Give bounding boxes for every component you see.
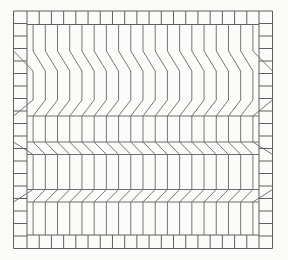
shear-diagonal-right-border	[253, 100, 273, 116]
shear-diagonal-left-border	[14, 100, 34, 116]
shear-diagonal	[45, 100, 57, 116]
shear-diagonal	[58, 51, 70, 71]
shear-diagonal	[241, 190, 253, 203]
shear-diagonal	[241, 51, 253, 71]
shear-diagonal	[33, 100, 45, 116]
shear-diagonal	[119, 142, 131, 155]
shear-diagonal-right-border	[253, 190, 273, 203]
shear-diagonal	[216, 190, 228, 203]
shear-diagonal	[155, 142, 167, 155]
shear-diagonal	[155, 51, 167, 71]
shear-diagonal	[119, 190, 131, 203]
shear-diagonal	[192, 51, 204, 71]
shear-diagonal	[58, 190, 70, 203]
shear-diagonal	[167, 142, 179, 155]
shear-diagonal	[131, 51, 143, 71]
shear-diagonal	[143, 100, 155, 116]
shear-diagonal	[106, 100, 118, 116]
shear-diagonal	[106, 190, 118, 203]
shear-diagonal	[216, 100, 228, 116]
shear-diagonal	[143, 142, 155, 155]
shear-diagonal	[70, 51, 82, 71]
shear-diagonal	[228, 51, 240, 71]
shear-diagonal	[180, 100, 192, 116]
shear-diagonal	[82, 100, 94, 116]
shear-diagonal	[204, 100, 216, 116]
shear-diagonal	[180, 51, 192, 71]
shear-diagonal	[58, 100, 70, 116]
shear-diagonal	[204, 142, 216, 155]
shear-diagonal	[45, 190, 57, 203]
shear-diagonal	[58, 142, 70, 155]
shear-diagonal	[180, 142, 192, 155]
shear-diagonal	[167, 51, 179, 71]
shear-diagonal	[155, 190, 167, 203]
shear-diagonal	[216, 51, 228, 71]
shear-diagonal	[70, 100, 82, 116]
shear-diagonal	[204, 51, 216, 71]
shear-diagonal	[216, 142, 228, 155]
shear-diagonal	[131, 142, 143, 155]
shear-diagonal	[131, 190, 143, 203]
offset-quad-mesh-diagram	[0, 0, 288, 260]
shear-diagonal	[106, 51, 118, 71]
shear-diagonal	[192, 142, 204, 155]
shear-diagonal	[94, 100, 106, 116]
shear-diagonal	[143, 51, 155, 71]
shear-diagonal	[94, 190, 106, 203]
shear-diagonal	[228, 100, 240, 116]
shear-diagonal	[192, 100, 204, 116]
shear-diagonal	[94, 51, 106, 71]
shear-diagonal	[106, 142, 118, 155]
shear-diagonal	[131, 100, 143, 116]
shear-diagonal	[119, 51, 131, 71]
shear-diagonal	[33, 190, 45, 203]
shear-diagonal	[180, 190, 192, 203]
shear-diagonal	[204, 190, 216, 203]
shear-diagonal	[241, 100, 253, 116]
shear-diagonal	[241, 142, 253, 155]
shear-diagonal	[82, 51, 94, 71]
shear-diagonal	[45, 142, 57, 155]
shear-diagonal	[45, 51, 57, 71]
shear-diagonal	[82, 190, 94, 203]
shear-diagonal	[82, 142, 94, 155]
shear-diagonal	[167, 190, 179, 203]
shear-diagonal	[143, 190, 155, 203]
figure-canvas	[0, 0, 288, 260]
shear-diagonal-left-border	[14, 190, 34, 203]
shear-diagonal	[70, 142, 82, 155]
shear-diagonal	[155, 100, 167, 116]
shear-diagonal	[70, 190, 82, 203]
shear-diagonal	[33, 51, 45, 71]
shear-diagonal	[228, 142, 240, 155]
shear-diagonal	[192, 190, 204, 203]
shear-diagonal	[228, 190, 240, 203]
shear-diagonal	[94, 142, 106, 155]
shear-diagonal	[119, 100, 131, 116]
shear-diagonal	[33, 142, 45, 155]
shear-diagonal	[167, 100, 179, 116]
